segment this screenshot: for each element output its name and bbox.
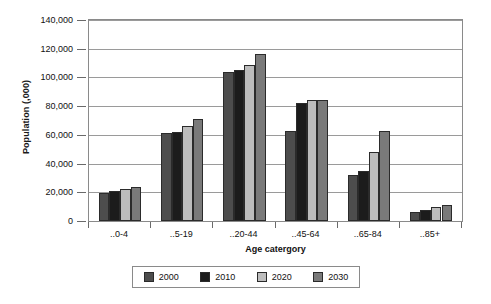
y-axis-tick: [77, 192, 86, 193]
bar-2010-0-4: [109, 191, 120, 221]
legend-item-2030: 2030: [313, 272, 348, 282]
bar-group: [410, 20, 452, 221]
bar-2020-0-4: [120, 189, 131, 221]
bar-2030-45-64: [317, 100, 328, 221]
bar-2010-5-19: [172, 132, 183, 221]
legend-item-2010: 2010: [200, 272, 235, 282]
bar-2020-5-19: [182, 126, 193, 221]
bar-2030-65-84: [379, 131, 390, 221]
legend-item-2020: 2020: [257, 272, 292, 282]
legend-swatch-icon: [144, 272, 154, 282]
bar-2030-0-4: [131, 187, 142, 221]
bar-2020-85+: [431, 207, 442, 221]
bar-2030-5-19: [193, 119, 204, 221]
chart-legend: 2000201020202030: [132, 266, 360, 288]
x-axis-tick-label: ..45-64: [292, 229, 320, 239]
x-axis-tick: [212, 222, 213, 228]
bar-2000-20-44: [223, 72, 234, 221]
bar-group: [223, 20, 265, 221]
bar-2000-85+: [410, 212, 421, 221]
bar-2010-45-64: [296, 103, 307, 221]
y-axis-tick-label: 120,000: [40, 44, 73, 54]
bar-group: [99, 20, 141, 221]
x-axis-tick-label: ..85+: [420, 229, 440, 239]
x-axis-title: Age catergory: [88, 244, 463, 254]
legend-label: 2000: [159, 272, 179, 282]
y-axis-tick: [77, 135, 86, 136]
x-axis-ticks: [88, 222, 463, 228]
y-axis-tick: [77, 221, 86, 222]
bar-2010-20-44: [234, 70, 245, 221]
x-axis-tick-label: ..5-19: [170, 229, 193, 239]
y-axis-tick-label: 80,000: [45, 101, 73, 111]
bar-2010-85+: [420, 210, 431, 221]
bar-chart-figure: Population (,000) 020,00040,00060,00080,…: [0, 0, 491, 304]
legend-swatch-icon: [257, 272, 267, 282]
legend-label: 2030: [328, 272, 348, 282]
bar-2000-65-84: [348, 175, 359, 221]
x-axis-tick: [337, 222, 338, 228]
legend-swatch-icon: [200, 272, 210, 282]
y-axis-tick: [77, 20, 86, 21]
legend-label: 2010: [215, 272, 235, 282]
x-axis-tick-label: ..20-44: [229, 229, 257, 239]
bar-2000-45-64: [285, 131, 296, 221]
bar-2020-45-64: [307, 100, 318, 221]
y-axis-tick-label: 60,000: [45, 130, 73, 140]
x-axis-tick: [275, 222, 276, 228]
bars-layer: [89, 20, 462, 221]
x-axis-tick-label: ..65-84: [354, 229, 382, 239]
y-axis-tick-label: 20,000: [45, 187, 73, 197]
bar-2030-85+: [442, 205, 453, 221]
x-axis-tick-label: ..0-4: [110, 229, 128, 239]
y-axis-tick: [77, 49, 86, 50]
y-axis-tick-labels: 020,00040,00060,00080,000100,000120,0001…: [0, 0, 88, 304]
bar-2020-20-44: [244, 65, 255, 221]
legend-label: 2020: [272, 272, 292, 282]
y-axis-tick-label: 0: [68, 216, 73, 226]
bar-2030-20-44: [255, 54, 266, 221]
y-axis-tick: [77, 77, 86, 78]
bar-2000-0-4: [99, 193, 110, 221]
bar-2000-5-19: [161, 133, 172, 221]
y-axis-tick-label: 140,000: [40, 15, 73, 25]
legend-swatch-icon: [313, 272, 323, 282]
bar-2020-65-84: [369, 152, 380, 221]
bar-group: [285, 20, 327, 221]
x-axis-tick: [88, 222, 89, 228]
x-axis-tick: [399, 222, 400, 228]
bar-group: [161, 20, 203, 221]
bar-group: [348, 20, 390, 221]
y-axis-tick-label: 100,000: [40, 72, 73, 82]
y-axis-tick: [77, 164, 86, 165]
x-axis-tick: [461, 222, 462, 228]
x-axis-tick: [150, 222, 151, 228]
y-axis-tick-label: 40,000: [45, 159, 73, 169]
x-axis-tick-labels: ..0-4..5-19..20-44..45-64..65-84..85+: [88, 229, 463, 243]
bar-2010-65-84: [358, 171, 369, 221]
legend-item-2000: 2000: [144, 272, 179, 282]
y-axis-tick: [77, 106, 86, 107]
